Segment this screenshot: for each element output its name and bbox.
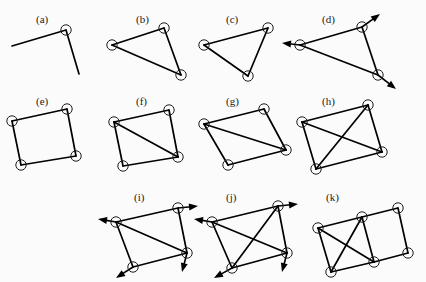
joint-circle xyxy=(182,248,192,258)
bar xyxy=(114,122,123,166)
bar xyxy=(300,45,378,75)
bar xyxy=(278,206,287,253)
joint-circle xyxy=(377,147,387,157)
joint-circle xyxy=(393,203,403,213)
bar xyxy=(12,109,67,121)
bar xyxy=(114,122,178,157)
bar xyxy=(204,28,268,45)
bar xyxy=(123,157,178,166)
joint-circle xyxy=(164,105,174,115)
bar xyxy=(318,217,362,228)
joint-circle xyxy=(227,263,237,273)
joint-circle xyxy=(199,119,209,129)
joint-circle xyxy=(159,23,169,33)
joint-circle xyxy=(118,161,128,171)
bar xyxy=(204,109,264,124)
joint-circle xyxy=(128,262,138,272)
joint-circle xyxy=(173,152,183,162)
joint-circle xyxy=(311,164,321,174)
joint-circle xyxy=(297,117,307,127)
bar xyxy=(302,105,368,122)
bar xyxy=(204,45,248,76)
bar xyxy=(316,152,382,169)
bar xyxy=(116,208,178,222)
panel-diagram-h xyxy=(288,100,426,200)
joint-circle xyxy=(71,151,81,161)
joint-circle xyxy=(259,104,269,114)
joint-circle xyxy=(199,40,209,50)
bar xyxy=(67,109,76,156)
joint-circle xyxy=(61,25,71,35)
joint-circle xyxy=(357,22,367,32)
bar xyxy=(12,30,66,46)
bar xyxy=(133,253,187,267)
joint-circle xyxy=(313,223,323,233)
joint-circle xyxy=(403,248,413,258)
joint-circle xyxy=(363,100,373,110)
bar xyxy=(21,156,76,165)
joint-circle xyxy=(326,267,336,277)
joint-circle xyxy=(176,70,186,80)
bar xyxy=(112,28,164,45)
joint-circle xyxy=(243,71,253,81)
joint-circle xyxy=(16,160,26,170)
bar xyxy=(362,27,378,75)
joint-circle xyxy=(223,160,233,170)
bar xyxy=(232,253,287,268)
bar xyxy=(248,28,268,76)
bar xyxy=(228,150,286,165)
bar xyxy=(178,208,187,253)
bar xyxy=(316,105,368,169)
joint-circle xyxy=(7,116,17,126)
joint-circle xyxy=(173,203,183,213)
joint-circle xyxy=(273,201,283,211)
bar xyxy=(331,262,374,272)
joint-circle xyxy=(357,212,367,222)
joint-circle xyxy=(373,70,383,80)
joint-circle xyxy=(369,257,379,267)
bar xyxy=(112,45,181,75)
joint-circle xyxy=(295,40,305,50)
bar xyxy=(169,110,178,157)
bar xyxy=(302,122,316,169)
bar xyxy=(368,105,382,152)
bar xyxy=(398,208,408,253)
joint-circle xyxy=(263,23,273,33)
joint-circle xyxy=(111,217,121,227)
joint-circle xyxy=(109,117,119,127)
joint-circle xyxy=(107,40,117,50)
bar xyxy=(12,121,21,165)
joint-circle xyxy=(207,217,217,227)
bar xyxy=(114,110,169,122)
panel-diagram-k xyxy=(300,196,426,282)
bar xyxy=(331,217,362,272)
bar xyxy=(66,30,79,74)
bar xyxy=(300,27,362,45)
joint-circle xyxy=(282,248,292,258)
figure-canvas: (a)(b)(c)(d)(e)(f)(g)(h)(i)(j)(k) xyxy=(0,0,426,282)
joint-circle xyxy=(62,104,72,114)
